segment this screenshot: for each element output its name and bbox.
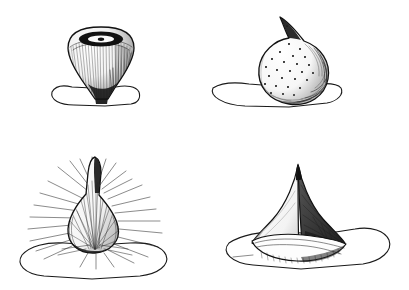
illustration-plate (0, 0, 409, 290)
figure-apex (296, 164, 302, 181)
apical-crater (79, 32, 123, 47)
figure-top-right (205, 0, 409, 145)
figure-bottom-left (0, 145, 204, 290)
figure-body (259, 17, 329, 104)
beak-shading (280, 17, 301, 40)
figure-top-left (0, 0, 204, 145)
figure-bottom-right (205, 145, 409, 290)
